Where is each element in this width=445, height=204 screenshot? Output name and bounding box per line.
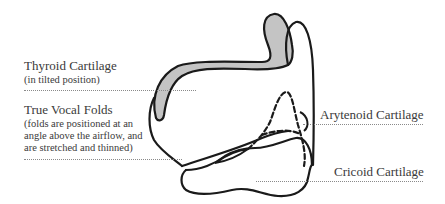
vocal-folds-note-line-2: angle above the airflow, and <box>24 130 143 142</box>
arytenoid-leader-line <box>303 124 423 125</box>
cricoid-cartilage-label: Cricoid Cartilage <box>334 164 424 179</box>
arytenoid-bump <box>300 112 307 131</box>
thyroid-cartilage-label: Thyroid Cartilage <box>24 58 117 73</box>
thyroid-cartilage-note: (in tilted position) <box>24 74 100 86</box>
vocal-folds-leader-line <box>24 159 182 160</box>
vocal-fold-upper-line <box>182 131 288 166</box>
vocal-folds-note-line-1: (folds are positioned at an <box>24 118 133 130</box>
vocal-folds-label: True Vocal Folds <box>24 102 113 117</box>
thyroid-cartilage-shape <box>154 14 293 120</box>
arytenoid-cartilage-dashed <box>248 92 305 166</box>
cricoid-leader-line <box>256 181 423 182</box>
larynx-diagram: Thyroid Cartilage (in tilted position) T… <box>0 0 445 204</box>
arytenoid-cartilage-label: Arytenoid Cartilage <box>320 107 424 122</box>
thyroid-leader-line <box>24 90 196 91</box>
vocal-folds-note-line-3: are stretched and thinned) <box>24 142 133 154</box>
